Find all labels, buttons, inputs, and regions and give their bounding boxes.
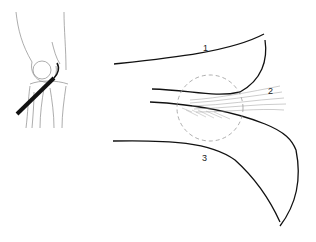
structure-1-loop [152, 40, 266, 94]
structure-3-right [280, 150, 298, 226]
main-detail [113, 34, 298, 226]
hatched-area [182, 108, 230, 119]
structure-3-outline [113, 141, 280, 222]
knee-inset [16, 12, 68, 128]
label-1: 1 [203, 43, 208, 53]
structure-2-edge [150, 102, 296, 150]
label-2: 2 [268, 86, 273, 96]
structure-1-upper [114, 34, 264, 64]
diagram-canvas: 1 2 3 [0, 0, 316, 242]
label-3: 3 [202, 153, 207, 163]
arthroscope-icon [17, 63, 58, 114]
